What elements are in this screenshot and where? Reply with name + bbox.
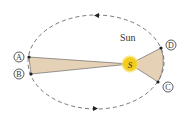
svg-text:D: D (168, 41, 174, 50)
point-a (27, 55, 30, 58)
arrow-top-icon (94, 13, 99, 18)
label-b: B (14, 69, 24, 79)
arrow-bottom-icon (93, 106, 98, 111)
svg-text:C: C (165, 83, 170, 92)
point-d (159, 46, 162, 49)
orbit-diagram: S Sun A B C D (0, 0, 188, 118)
svg-text:B: B (16, 70, 21, 79)
point-b (29, 72, 32, 75)
sun-symbol: S (128, 60, 133, 70)
svg-text:A: A (16, 53, 22, 62)
label-d: D (166, 40, 176, 50)
point-c (156, 80, 159, 83)
sector-ab (29, 57, 130, 74)
label-a: A (14, 52, 24, 62)
sun-label: Sun (120, 32, 136, 43)
label-c: C (163, 82, 173, 92)
